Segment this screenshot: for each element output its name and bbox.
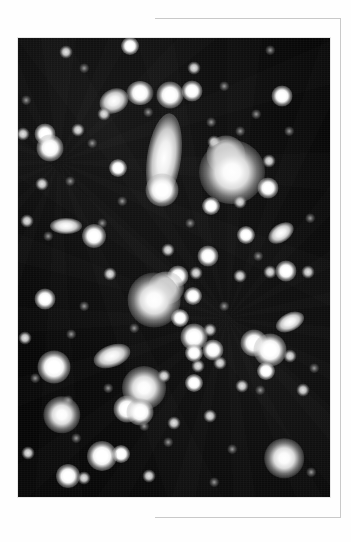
sky-object-verydim bbox=[219, 301, 229, 311]
sky-object-elongated-galaxy bbox=[264, 218, 297, 249]
sky-object-star bbox=[121, 38, 139, 55]
sky-object-faint bbox=[168, 417, 181, 430]
sky-object-verydim bbox=[134, 85, 144, 95]
sky-object-faint bbox=[297, 384, 310, 397]
sky-object-galaxy bbox=[264, 438, 304, 478]
sky-object-star bbox=[109, 159, 127, 177]
sky-object-faint bbox=[36, 178, 49, 191]
sky-object-faint bbox=[284, 350, 297, 363]
sky-object-galaxy bbox=[122, 366, 166, 410]
sky-object-star bbox=[87, 441, 117, 471]
sky-object-verydim bbox=[305, 213, 315, 223]
sky-object-verydim bbox=[219, 81, 229, 91]
sky-object-star bbox=[207, 136, 246, 175]
sky-object-star bbox=[157, 82, 184, 109]
sky-object-verydim bbox=[235, 126, 245, 136]
sky-object-verydim bbox=[139, 421, 149, 431]
sky-object-verydim bbox=[87, 138, 97, 148]
sky-object-faint bbox=[234, 196, 247, 209]
sky-object-verydim bbox=[255, 385, 265, 395]
sky-object-star bbox=[237, 226, 255, 244]
sky-object-star bbox=[38, 351, 71, 384]
sky-object-star bbox=[184, 287, 202, 305]
sky-object-verydim bbox=[129, 323, 139, 333]
sky-object-faint bbox=[21, 215, 34, 228]
sky-object-galaxy bbox=[199, 140, 265, 204]
sky-object-star bbox=[127, 399, 154, 426]
astronomy-photograph bbox=[18, 38, 330, 497]
page-frame-rule-corner bbox=[155, 18, 156, 19]
sky-object-star bbox=[254, 334, 287, 367]
sky-object-faint bbox=[162, 244, 175, 257]
sky-object-star bbox=[37, 135, 64, 162]
sky-object-faint bbox=[264, 266, 277, 279]
celestial-objects-layer bbox=[18, 38, 330, 497]
sky-object-faint bbox=[234, 270, 247, 283]
sky-object-star bbox=[203, 340, 224, 361]
sky-object-star bbox=[276, 261, 297, 282]
sky-object-star bbox=[185, 374, 203, 392]
sky-object-faint bbox=[72, 124, 85, 137]
sky-object-faint bbox=[18, 128, 30, 141]
sky-object-faint bbox=[60, 46, 73, 59]
sky-object-verydim bbox=[71, 433, 81, 443]
sky-object-faint bbox=[192, 360, 205, 373]
sky-object-verydim bbox=[30, 373, 40, 383]
sky-object-verydim bbox=[66, 329, 76, 339]
sky-object-verydim bbox=[65, 176, 75, 186]
sky-object-verydim bbox=[209, 477, 219, 487]
sky-object-verydim bbox=[284, 126, 294, 136]
sky-object-elongated-galaxy bbox=[273, 307, 308, 336]
sky-object-star bbox=[241, 330, 268, 357]
page-sheet: Deep sky photographic plate showing a de… bbox=[0, 0, 351, 542]
sky-object-faint bbox=[158, 370, 171, 383]
sky-object-faint bbox=[204, 410, 217, 423]
sky-object-verydim bbox=[309, 363, 319, 373]
sky-object-verydim bbox=[163, 437, 173, 447]
sky-object-star bbox=[168, 266, 189, 287]
sky-object-faint bbox=[188, 62, 201, 75]
sky-object-star bbox=[148, 272, 184, 305]
sky-object-star bbox=[112, 445, 130, 463]
sky-object-faint bbox=[78, 472, 91, 485]
sky-object-star bbox=[181, 324, 208, 351]
sky-object-galaxy bbox=[128, 273, 181, 328]
sky-object-star bbox=[35, 124, 56, 145]
sky-object-faint bbox=[190, 267, 203, 280]
sky-object-star bbox=[198, 246, 219, 267]
sky-object-star bbox=[35, 289, 56, 310]
sky-object-verydim bbox=[97, 218, 107, 228]
sky-object-faint bbox=[263, 155, 276, 168]
sky-object-star bbox=[114, 396, 141, 423]
sky-object-faint bbox=[19, 332, 32, 345]
sky-object-faint bbox=[208, 136, 221, 149]
sky-object-verydim bbox=[79, 301, 89, 311]
sky-object-verydim bbox=[103, 383, 113, 393]
sky-object-verydim bbox=[206, 117, 216, 127]
sky-object-verydim bbox=[253, 251, 263, 261]
sky-object-star bbox=[82, 224, 106, 248]
sky-object-star bbox=[171, 309, 189, 327]
sky-object-verydim bbox=[251, 109, 261, 119]
sky-object-star bbox=[182, 81, 203, 102]
sky-object-verydim bbox=[306, 467, 316, 477]
sky-object-elongated-galaxy bbox=[50, 218, 82, 234]
sky-object-verydim bbox=[63, 395, 73, 405]
sky-object-star bbox=[127, 81, 154, 105]
sky-object-star bbox=[257, 362, 275, 380]
sky-object-star bbox=[202, 197, 220, 215]
sky-object-star bbox=[185, 344, 203, 362]
sky-object-verydim bbox=[227, 444, 237, 454]
sky-object-verydim bbox=[21, 95, 31, 105]
sky-object-faint bbox=[236, 380, 249, 393]
sky-object-faint bbox=[214, 357, 227, 370]
sky-object-star bbox=[56, 464, 80, 488]
sky-object-verydim bbox=[185, 218, 195, 228]
sky-object-verydim bbox=[143, 107, 153, 117]
sky-object-elongated-galaxy bbox=[90, 339, 133, 373]
sky-object-star bbox=[258, 178, 279, 199]
sky-object-faint bbox=[104, 268, 117, 281]
sky-object-star bbox=[272, 86, 293, 107]
sky-object-elongated-galaxy bbox=[95, 83, 133, 118]
sky-object-verydim bbox=[43, 231, 53, 241]
